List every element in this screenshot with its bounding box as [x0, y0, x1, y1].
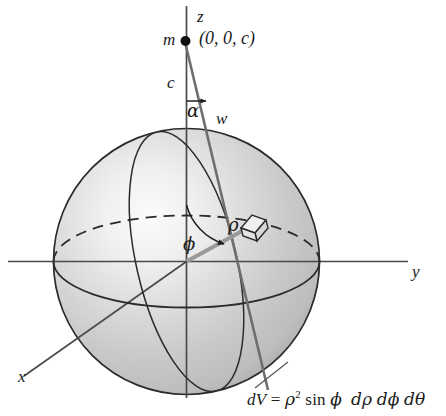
- point-coordinates-label: (0, 0, c): [199, 29, 255, 47]
- formula-d-theta: dθ: [404, 389, 426, 409]
- figure-canvas: [0, 0, 446, 416]
- segment-label-rho: ρ: [228, 216, 239, 234]
- formula-d-rho: dρ: [351, 389, 372, 409]
- formula-equals: =: [271, 390, 281, 409]
- formula-rho: ρ: [285, 389, 295, 409]
- formula-phi: ϕ: [330, 389, 342, 409]
- volume-element-formula: dV = ρ2 sin ϕ dρ dϕ dθ: [247, 389, 426, 408]
- formula-lhs: dV: [247, 390, 266, 409]
- formula-d-phi: dϕ: [377, 389, 400, 409]
- segment-label-c: c: [167, 74, 175, 91]
- angle-label-phi: ϕ: [183, 235, 195, 253]
- spherical-coordinates-figure: z x y m (0, 0, c) c α w ϕ ρ dV = ρ2 sin …: [0, 0, 446, 416]
- segment-label-w: w: [216, 110, 227, 127]
- point-mass-label-m: m: [163, 31, 175, 48]
- angle-label-alpha: α: [187, 102, 199, 120]
- axis-label-y: y: [412, 263, 420, 280]
- axis-label-x: x: [18, 368, 26, 385]
- point-mass-m: [181, 36, 191, 46]
- axis-label-z: z: [197, 8, 204, 25]
- formula-sin: sin: [305, 390, 325, 409]
